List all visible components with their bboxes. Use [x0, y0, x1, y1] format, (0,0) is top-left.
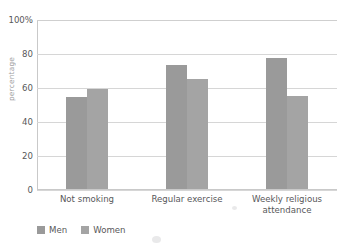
legend-swatch-men-icon — [37, 226, 45, 234]
chart-figure: percentage 020406080100%Not smokingRegul… — [0, 0, 341, 247]
bar-women-1 — [187, 79, 208, 190]
plot-area: 020406080100%Not smokingRegular exercise… — [37, 20, 337, 190]
legend-item-women: Women — [81, 226, 125, 235]
gridline-0 — [37, 190, 337, 191]
y-tick-label-60: 60 — [22, 84, 33, 93]
chart-legend: Men Women — [37, 226, 126, 235]
y-tick-label-100: 100% — [8, 16, 33, 25]
bar-men-0 — [66, 97, 87, 189]
x-axis-label-1: Regular exercise — [137, 194, 237, 205]
legend-swatch-women-icon — [81, 226, 89, 234]
scan-artifact — [152, 236, 161, 243]
gridline-80 — [37, 54, 337, 55]
gridline-100 — [37, 20, 337, 21]
scan-artifact — [232, 206, 237, 210]
legend-label-women: Women — [93, 226, 125, 235]
bar-women-0 — [87, 89, 108, 189]
y-axis-title-cropped: percentage — [7, 19, 21, 139]
y-tick-label-20: 20 — [22, 152, 33, 161]
y-tick-label-80: 80 — [22, 50, 33, 59]
x-axis-label-2: Weekly religious attendance — [237, 194, 337, 215]
y-axis-line — [37, 20, 38, 190]
x-axis-label-0: Not smoking — [37, 194, 137, 205]
bar-men-2 — [266, 58, 287, 189]
legend-item-men: Men — [37, 226, 67, 235]
y-tick-label-0: 0 — [28, 186, 33, 195]
y-tick-label-40: 40 — [22, 118, 33, 127]
legend-label-men: Men — [49, 226, 67, 235]
bar-women-2 — [287, 96, 308, 190]
bar-men-1 — [166, 65, 187, 189]
